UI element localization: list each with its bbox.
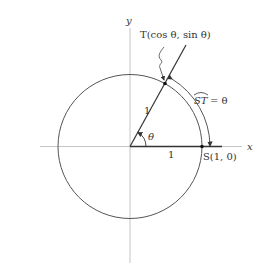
point-S [200, 145, 204, 149]
angle-theta-label: θ [148, 131, 154, 142]
angle-arc [138, 133, 146, 147]
x-axis-label: x [247, 141, 253, 152]
terminal-ray [130, 45, 186, 147]
T-pointer [159, 47, 164, 80]
arc-label-ST: ST [194, 95, 209, 106]
point-S-label: S(1, 0) [203, 151, 237, 162]
unit-circle-figure: y x T(cos θ, sin θ) S(1, 0) 1 1 θ ST = θ [0, 0, 268, 279]
point-T-label: T(cos θ, sin θ) [140, 29, 211, 40]
arc-label-equals-theta: = θ [210, 95, 228, 106]
y-axis-label: y [125, 15, 132, 26]
arc-ST-indicator [172, 79, 210, 146]
x-segment-label: 1 [168, 149, 174, 160]
point-T [163, 82, 167, 86]
radius-label: 1 [144, 105, 150, 116]
